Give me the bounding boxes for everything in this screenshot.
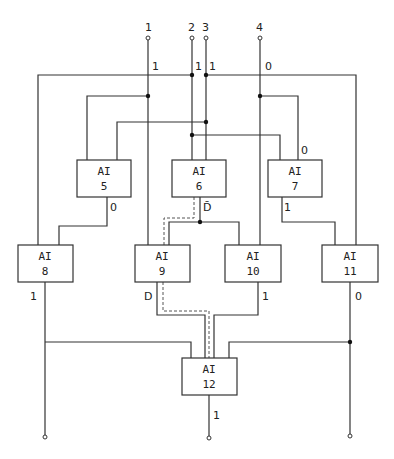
gate-type-label: AI (97, 165, 110, 178)
gate-type-label: AI (288, 165, 301, 178)
gate-ai11: AI 11 (322, 245, 378, 282)
gate-number-label: 5 (101, 180, 108, 193)
output-terminal-right-icon (348, 434, 352, 438)
junction-dot-icon (258, 94, 262, 98)
gate-ai8: AI 8 (18, 245, 73, 282)
logic-circuit-diagram: 1 2 3 4 1 1 1 0 (0, 0, 394, 459)
input-terminal-1: 1 (145, 21, 152, 40)
gate-ai5: AI 5 (77, 160, 131, 197)
gate-number-label: 11 (343, 265, 356, 278)
gate-ai12: AI 12 (182, 358, 237, 395)
gate-number-label: 7 (292, 180, 299, 193)
input-1-value: 1 (152, 60, 159, 73)
junction-dot-icon (146, 94, 150, 98)
terminal-circle-icon (258, 36, 262, 40)
input-2-value: 1 (195, 60, 202, 73)
junction-dot-icon (204, 120, 208, 124)
wire-ai9-to-ai12 (157, 282, 205, 358)
ai9-output-value: D (144, 290, 152, 303)
gate-type-label: AI (202, 363, 215, 376)
output-terminal-center-icon (207, 436, 211, 440)
gate-number-label: 8 (42, 265, 49, 278)
dashed-path-ai9-ai12 (163, 282, 209, 358)
gate-number-label: 12 (202, 378, 215, 391)
gate-number-label: 9 (159, 265, 166, 278)
ai5-output-value: 0 (110, 201, 117, 214)
wire-ai6-to-ai10 (200, 222, 239, 245)
input-label-1: 1 (145, 21, 152, 34)
gate-type-label: AI (246, 250, 259, 263)
gate-ai9: AI 9 (135, 245, 190, 282)
junctions (146, 73, 352, 344)
wire-in4-to-ai7 (260, 96, 298, 160)
gate-number-label: 10 (246, 265, 259, 278)
gate-ai6: AI 6 (172, 160, 226, 197)
gate-ai10: AI 10 (225, 245, 281, 282)
gate-number-label: 6 (196, 180, 203, 193)
input-terminal-4: 4 (256, 21, 263, 40)
input-terminal-2: 2 (188, 21, 195, 40)
output-terminal-left-icon (43, 435, 47, 439)
ai7-output-value: 1 (284, 201, 291, 214)
input-label-4: 4 (256, 21, 263, 34)
junction-dot-icon (190, 73, 194, 77)
terminal-circle-icon (146, 36, 150, 40)
junction-dot-icon (204, 73, 208, 77)
wire-ai6-to-ai9 (169, 222, 200, 245)
input-3-value: 1 (209, 60, 216, 73)
wire-ai8-to-ai12 (45, 342, 191, 358)
ai11-output-value: 0 (355, 290, 362, 303)
terminal-circle-icon (190, 36, 194, 40)
ai7-input-value: 0 (301, 144, 308, 157)
wire-ai5-to-ai8 (59, 197, 107, 245)
junction-dot-icon (198, 220, 202, 224)
ai6-output-value: D̄ (203, 201, 211, 214)
gate-type-label: AI (192, 165, 205, 178)
gate-ai7: AI 7 (268, 160, 322, 197)
ai8-output-value: 1 (30, 290, 37, 303)
wire-ai10-to-ai12 (214, 282, 258, 358)
wire-ai11-to-ai12 (229, 342, 350, 358)
wire-in2-to-ai7 (192, 135, 280, 160)
junction-dot-icon (190, 133, 194, 137)
gate-type-label: AI (155, 250, 168, 263)
gate-type-label: AI (38, 250, 51, 263)
terminal-circle-icon (204, 36, 208, 40)
ai12-output-value: 1 (213, 409, 220, 422)
input-label-2: 2 (188, 21, 195, 34)
junction-dot-icon (348, 340, 352, 344)
input-terminal-3: 3 (202, 21, 209, 40)
ai10-output-value: 1 (262, 290, 269, 303)
wire-in3-to-ai5 (117, 122, 206, 160)
input-4-value: 0 (265, 60, 272, 73)
input-label-3: 3 (202, 21, 209, 34)
gate-type-label: AI (343, 250, 356, 263)
